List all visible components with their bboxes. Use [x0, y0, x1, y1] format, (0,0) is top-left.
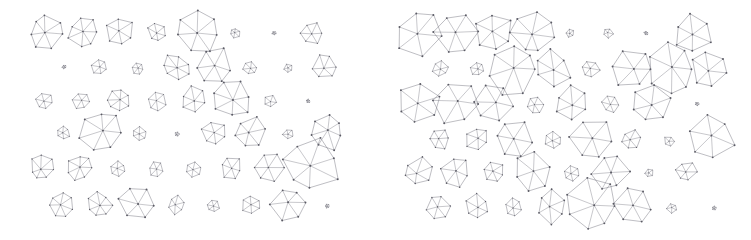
glyph-node — [531, 33, 533, 35]
glyph-node — [76, 108, 77, 109]
glyph-node — [714, 206, 715, 207]
glyph-node — [699, 104, 700, 105]
glyph-node — [213, 206, 214, 207]
glyph-node — [69, 136, 70, 137]
glyph-node — [475, 23, 477, 25]
glyph-node — [157, 110, 158, 111]
glyph-node — [55, 215, 56, 216]
glyph-node — [102, 130, 104, 132]
glyph-node — [91, 65, 92, 66]
glyph-node — [72, 209, 73, 210]
glyph-node — [144, 138, 145, 139]
glyph-node — [577, 168, 578, 169]
glyph-node — [63, 65, 64, 66]
glyph-node — [525, 49, 527, 51]
glyph-node — [191, 85, 192, 86]
glyph-node — [156, 100, 157, 101]
glyph-node — [610, 141, 612, 143]
glyph-node — [209, 209, 210, 210]
glyph-node — [269, 203, 271, 205]
glyph-node — [646, 33, 647, 34]
glyph-node — [134, 73, 135, 74]
glyph-node — [529, 55, 531, 57]
glyph-node — [595, 62, 596, 63]
glyph-node — [232, 99, 234, 101]
glyph-node — [534, 104, 535, 105]
glyph-node — [139, 140, 140, 141]
glyph-node — [706, 114, 708, 116]
glyph-node — [426, 209, 427, 210]
glyph-node — [509, 32, 511, 34]
glyph-node — [183, 96, 184, 97]
glyph-node — [273, 180, 275, 182]
glyph-node — [93, 149, 95, 151]
glyph-node — [177, 134, 178, 135]
glyph-node — [214, 132, 215, 133]
glyph-node — [513, 138, 515, 140]
glyph-node — [71, 197, 72, 198]
glyph-node — [133, 135, 134, 136]
glyph-node — [182, 106, 183, 107]
glyph-node — [63, 126, 64, 127]
glyph-node — [288, 68, 289, 69]
glyph-node — [30, 34, 32, 36]
glyph-node — [470, 85, 472, 87]
glyph-node — [272, 95, 273, 96]
glyph-node — [319, 54, 320, 55]
glyph-node — [283, 167, 285, 169]
glyph-node — [157, 40, 158, 41]
glyph-node — [138, 68, 139, 69]
glyph-node — [586, 177, 588, 179]
glyph-node — [318, 76, 319, 77]
glyph-node — [112, 205, 113, 206]
glyph-node — [117, 168, 118, 169]
glyph-node — [118, 176, 119, 177]
glyph-node — [441, 35, 443, 37]
glyph-node — [176, 67, 177, 68]
glyph-node — [179, 19, 181, 21]
glyph-node — [606, 109, 607, 110]
glyph-node — [591, 76, 592, 77]
glyph-node — [119, 110, 120, 111]
glyph-node — [538, 212, 540, 214]
glyph-node — [477, 138, 478, 139]
glyph-node — [215, 143, 216, 144]
glyph-node — [222, 164, 223, 165]
glyph-node — [151, 38, 152, 39]
glyph-node — [223, 125, 224, 126]
glyph-node — [250, 68, 251, 69]
glyph-node — [447, 137, 448, 138]
glyph-node — [121, 43, 123, 45]
glyph-node — [88, 158, 89, 159]
glyph-node — [308, 187, 310, 189]
glyph-node — [628, 147, 629, 148]
glyph-node — [50, 47, 52, 49]
glyph-node — [115, 115, 117, 117]
glyph-node — [651, 83, 653, 85]
glyph-node — [622, 50, 624, 52]
glyph-node — [647, 34, 648, 35]
glyph-node — [110, 166, 111, 167]
glyph-node — [35, 21, 37, 23]
glyph-node — [473, 101, 475, 103]
glyph-node — [524, 121, 526, 123]
glyph-node — [419, 83, 421, 85]
glyph-node — [546, 135, 547, 136]
glyph-node — [245, 145, 247, 147]
glyph-node — [476, 129, 477, 130]
glyph-node — [464, 49, 466, 51]
glyph-node — [297, 216, 299, 218]
glyph-node — [234, 32, 235, 33]
glyph-node — [194, 100, 195, 101]
glyph-node — [205, 51, 207, 53]
glyph-node — [129, 188, 131, 190]
glyph-node — [669, 141, 670, 142]
glyph-node — [690, 68, 692, 70]
glyph-node — [306, 25, 307, 26]
glyph-node — [142, 69, 143, 70]
glyph-node — [696, 102, 697, 103]
glyph-node — [175, 204, 176, 205]
glyph-node — [323, 68, 324, 69]
glyph-node — [624, 134, 625, 135]
glyph-node — [677, 26, 679, 28]
